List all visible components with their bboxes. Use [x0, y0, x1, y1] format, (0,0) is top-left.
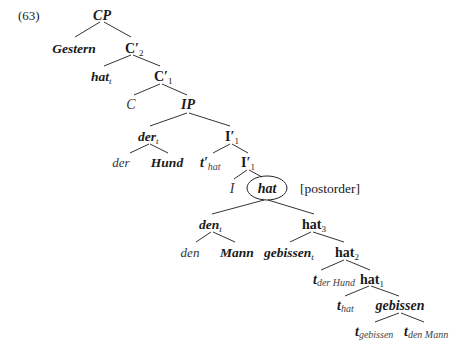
node-gebissen: gebissen	[375, 298, 425, 313]
example-number: (63)	[18, 8, 40, 23]
node-i-bar-1-lower: I′1	[241, 155, 255, 172]
node-den: den	[181, 245, 200, 260]
node-den-t: dent	[199, 217, 222, 234]
syntax-tree: (63) CP Gestern C′2 hatt C′1 C IP dert I…	[0, 0, 473, 353]
node-cp: CP	[93, 8, 111, 23]
node-der-t: dert	[138, 129, 159, 146]
node-hund: Hund	[150, 155, 184, 170]
node-mann: Mann	[219, 245, 254, 260]
node-i-bar-1-upper: I′1	[225, 129, 239, 146]
node-i: I	[229, 181, 236, 196]
node-gebissen-t: gebissent	[263, 245, 314, 262]
node-gestern: Gestern	[52, 41, 96, 56]
node-c-bar-1: C′1	[154, 69, 173, 86]
node-t-prime-hat: t′hat	[200, 155, 221, 172]
node-ip: IP	[180, 97, 195, 112]
node-t-der-hund: tder Hund	[313, 272, 356, 288]
node-t-den-mann: tden Mann	[404, 324, 448, 340]
node-hat-circled: hat	[258, 181, 278, 196]
node-hat-1: hat1	[360, 272, 384, 289]
node-hat-t: hatt	[91, 69, 112, 86]
node-c-bar-2: C′2	[125, 41, 144, 58]
node-hat-3: hat3	[302, 217, 326, 234]
node-t-gebissen: tgebissen	[355, 324, 393, 340]
node-hat-2: hat2	[335, 245, 359, 262]
node-t-hat: that	[337, 298, 354, 314]
node-c: C	[126, 97, 136, 112]
node-der: der	[112, 155, 130, 170]
postorder-annotation: [postorder]	[300, 181, 360, 196]
